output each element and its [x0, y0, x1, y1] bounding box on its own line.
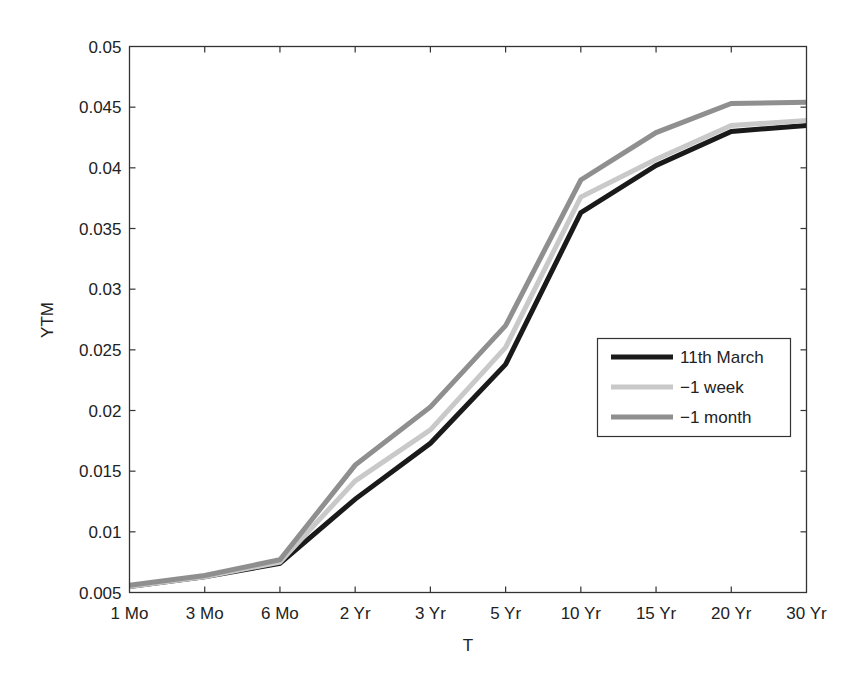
axes-box	[130, 47, 807, 593]
x-tick-label: 10 Yr	[561, 604, 602, 623]
x-tick-label: 1 Mo	[111, 604, 149, 623]
x-tick-label: 15 Yr	[636, 604, 677, 623]
y-tick-label: 0.03	[88, 280, 121, 299]
x-tick-label: 30 Yr	[786, 604, 827, 623]
y-tick-label: 0.005	[79, 584, 122, 603]
legend-label: 11th March	[680, 348, 764, 367]
y-axis-ticks: 0.0050.010.0150.020.0250.030.0350.040.04…	[79, 38, 807, 603]
x-tick-label: 3 Yr	[415, 604, 446, 623]
x-tick-label: 2 Yr	[340, 604, 371, 623]
y-tick-label: 0.025	[79, 341, 122, 360]
x-tick-label: 20 Yr	[711, 604, 752, 623]
yield-curve-chart: 0.0050.010.0150.020.0250.030.0350.040.04…	[0, 0, 863, 688]
y-tick-label: 0.04	[88, 159, 121, 178]
legend-label: −1 week	[680, 378, 744, 397]
x-tick-label: 5 Yr	[490, 604, 521, 623]
y-tick-label: 0.02	[88, 402, 121, 421]
x-tick-label: 3 Mo	[186, 604, 224, 623]
y-tick-label: 0.035	[79, 220, 122, 239]
x-tick-label: 6 Mo	[261, 604, 299, 623]
legend-label: −1 month	[680, 408, 751, 427]
y-tick-label: 0.045	[79, 98, 122, 117]
y-tick-label: 0.01	[88, 523, 121, 542]
y-axis-title: YTM	[38, 302, 57, 338]
x-axis-title: T	[463, 636, 473, 655]
legend: 11th March−1 week−1 month	[598, 339, 791, 437]
y-tick-label: 0.05	[88, 38, 121, 57]
y-tick-label: 0.015	[79, 462, 122, 481]
